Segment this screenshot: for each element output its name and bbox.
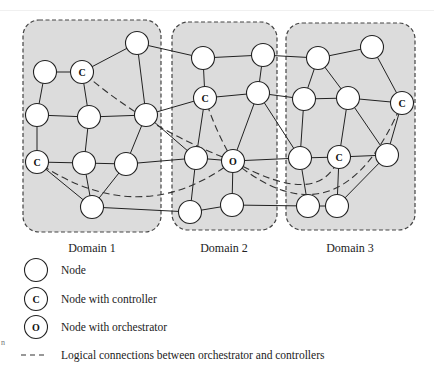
controller-glyph: C [335, 152, 342, 163]
legend-item-logical-connection: Logical connections between orchestrator… [21, 349, 325, 362]
controller-c1: C [71, 61, 94, 84]
node-n22 [326, 195, 349, 218]
domain-labels-layer: Domain 1Domain 2Domain 3 [68, 241, 374, 255]
node-n18 [337, 87, 360, 110]
orchestrator-glyph: O [32, 322, 40, 333]
controller-c5: C [328, 146, 351, 169]
legend-label-logical-connection: Logical connections between orchestrator… [61, 349, 325, 362]
node-icon [252, 44, 275, 67]
node-icon [78, 106, 101, 129]
network-diagram: CCCOCC Domain 1Domain 2Domain 3 Node C N… [0, 0, 434, 380]
node-n10 [252, 44, 275, 67]
controller-glyph: C [201, 93, 208, 104]
controller-c4: C [391, 92, 414, 115]
node-n19 [289, 147, 312, 170]
node-icon [337, 87, 360, 110]
node-icon [361, 36, 384, 59]
domain-label-d1: Domain 1 [68, 241, 116, 255]
node-icon [293, 88, 316, 111]
legend-label-orchestrator: Node with orchestrator [61, 321, 167, 333]
controller-glyph: C [78, 67, 85, 78]
controller-c3: C [194, 87, 217, 110]
node-n7 [115, 153, 138, 176]
node-n4 [78, 106, 101, 129]
node-n11 [247, 82, 270, 105]
node-icon [115, 153, 138, 176]
orchestrator-glyph: O [229, 156, 237, 167]
margin-mark: n [1, 338, 5, 347]
domain-label-d2: Domain 2 [200, 241, 248, 255]
node-n3 [26, 104, 49, 127]
node-icon [135, 104, 158, 127]
node-icon [297, 195, 320, 218]
legend-item-orchestrator: O Node with orchestrator [25, 316, 168, 339]
node-n21 [297, 195, 320, 218]
controller-glyph: C [32, 294, 39, 305]
controller-glyph: C [33, 157, 40, 168]
legend: Node C Node with controller O Node with … [21, 259, 325, 363]
domain-label-d3: Domain 3 [326, 241, 374, 255]
orchestrator-o1: O [222, 150, 245, 173]
node-n5 [135, 104, 158, 127]
legend-label-node: Node [61, 264, 86, 276]
node-icon [126, 32, 149, 55]
node-icon [81, 196, 104, 219]
node-icon [73, 152, 96, 175]
controller-glyph: C [398, 98, 405, 109]
node-icon [26, 104, 49, 127]
node-n6 [73, 152, 96, 175]
node-icon [192, 47, 215, 70]
node-n8 [81, 196, 104, 219]
node-n20 [376, 144, 399, 167]
node-n1 [126, 32, 149, 55]
node-icon [376, 144, 399, 167]
node-n9 [192, 47, 215, 70]
legend-label-controller: Node with controller [61, 293, 157, 305]
node-icon [25, 259, 48, 282]
legend-item-controller: C Node with controller [25, 288, 157, 311]
node-n14 [221, 194, 244, 217]
node-icon [326, 195, 349, 218]
node-icon [307, 47, 330, 70]
node-n16 [361, 36, 384, 59]
node-icon [179, 201, 202, 224]
node-icon [221, 194, 244, 217]
node-icon [247, 82, 270, 105]
node-n12 [185, 147, 208, 170]
node-icon [289, 147, 312, 170]
node-icon [185, 147, 208, 170]
controller-c2: C [26, 151, 49, 174]
node-n15 [307, 47, 330, 70]
node-n13 [179, 201, 202, 224]
node-n2 [34, 61, 57, 84]
node-icon [34, 61, 57, 84]
node-n17 [293, 88, 316, 111]
legend-item-node: Node [25, 259, 86, 282]
